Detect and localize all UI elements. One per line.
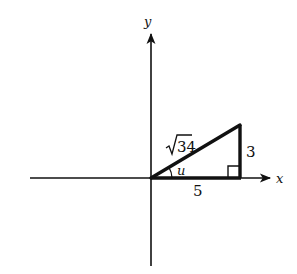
x-axis-label: x bbox=[276, 171, 284, 186]
right-angle-marker bbox=[228, 166, 240, 178]
y-axis-label: y bbox=[143, 14, 152, 29]
adjacent-side-label: 5 bbox=[193, 182, 203, 200]
angle-label: u bbox=[177, 163, 185, 178]
opposite-side-label: 3 bbox=[246, 143, 256, 161]
diagram-canvas: x y 34 3 5 u bbox=[0, 0, 297, 274]
hypotenuse-label: 34 bbox=[166, 135, 196, 156]
hypotenuse-radicand: 34 bbox=[177, 138, 196, 156]
